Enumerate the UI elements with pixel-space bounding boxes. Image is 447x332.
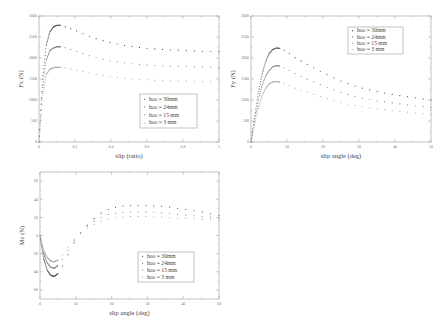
legend-entry: hoo = 24mm bbox=[147, 260, 176, 266]
y-tick-label: -40 bbox=[33, 269, 38, 274]
legend-entry: hoo = 3 mm bbox=[357, 46, 385, 52]
legend-marker-icon bbox=[352, 49, 353, 50]
y-tick-label: 2500 bbox=[241, 34, 249, 39]
legend-marker-icon bbox=[144, 122, 145, 123]
x-tick-label: 40 bbox=[393, 144, 397, 149]
legend-entry: hoo = 30mm bbox=[357, 27, 386, 33]
legend-entry: hoo = 3 mm bbox=[147, 274, 175, 280]
x-axis-label: slip angle (deg) bbox=[109, 309, 149, 317]
x-tick-label: 40 bbox=[181, 301, 185, 306]
y-axis-label: Mz (N) bbox=[18, 226, 26, 245]
legend: hoo = 30mmhoo = 24mmhoo = 15 mmhoo = 3 m… bbox=[348, 27, 403, 54]
y-axis-label: Fy (N) bbox=[229, 70, 237, 88]
y-tick-label: 2500 bbox=[29, 34, 37, 39]
series-hoo-24mm bbox=[250, 65, 431, 143]
y-tick-label: -20 bbox=[33, 251, 38, 256]
legend: hoo = 30mmhoo = 24mmhoo = 15 mmhoo = 3 m… bbox=[138, 252, 194, 282]
legend-entry: hoo = 15 mm bbox=[149, 112, 180, 118]
chart-mz-slip-angle: 01020304050-60-40-200204060slip angle (d… bbox=[0, 165, 230, 332]
series-hoo-30mm bbox=[250, 47, 431, 142]
legend-marker-icon bbox=[142, 256, 143, 257]
x-tick-label: 0.8 bbox=[181, 144, 186, 149]
y-tick-label: 0 bbox=[247, 139, 249, 144]
y-tick-label: 40 bbox=[34, 197, 38, 202]
chart-fy-svg: 01020304050050010001500200025003000slip … bbox=[225, 0, 447, 165]
legend-entry: hoo = 30mm bbox=[149, 96, 178, 102]
x-tick-label: 0 bbox=[39, 301, 41, 306]
legend-marker-icon bbox=[352, 36, 353, 37]
y-tick-label: -60 bbox=[33, 287, 38, 292]
y-tick-label: 1000 bbox=[241, 97, 249, 102]
legend-marker-icon bbox=[352, 30, 353, 31]
legend-marker-icon bbox=[144, 106, 145, 107]
x-tick-label: 50 bbox=[429, 144, 433, 149]
x-axis-label: slip (ratio) bbox=[115, 152, 142, 160]
legend-entry: hoo = 24mm bbox=[357, 34, 386, 40]
chart-fx-slip-ratio: 00.20.40.60.81050010001500200025003000sl… bbox=[0, 0, 225, 165]
x-tick-label: 20 bbox=[321, 144, 325, 149]
x-tick-label: 10 bbox=[74, 301, 78, 306]
x-tick-label: 20 bbox=[110, 301, 114, 306]
y-tick-label: 3000 bbox=[29, 13, 37, 18]
y-tick-label: 0 bbox=[35, 139, 37, 144]
x-axis-label: slip angle (deg) bbox=[321, 152, 361, 160]
chart-fy-slip-angle: 01020304050050010001500200025003000slip … bbox=[225, 0, 447, 165]
legend-entry: hoo = 30mm bbox=[147, 253, 176, 259]
legend-marker-icon bbox=[142, 270, 143, 271]
legend-marker-icon bbox=[142, 263, 143, 264]
x-tick-label: 0 bbox=[250, 144, 252, 149]
y-axis-label: Fx (N) bbox=[17, 70, 25, 88]
x-tick-label: 50 bbox=[217, 301, 221, 306]
legend-marker-icon bbox=[352, 43, 353, 44]
x-tick-label: 30 bbox=[145, 301, 149, 306]
legend-marker-icon bbox=[144, 114, 145, 115]
y-tick-label: 60 bbox=[34, 178, 38, 183]
x-tick-label: 1 bbox=[218, 144, 220, 149]
y-tick-label: 1500 bbox=[241, 76, 249, 81]
x-tick-label: 0 bbox=[38, 144, 40, 149]
y-tick-label: 1000 bbox=[29, 97, 37, 102]
x-tick-label: 30 bbox=[357, 144, 361, 149]
legend-entry: hoo = 15 mm bbox=[147, 267, 178, 273]
legend: hoo = 30mmhoo = 24mmhoo = 15 mmhoo = 3 m… bbox=[140, 94, 197, 128]
y-tick-label: 0 bbox=[36, 233, 38, 238]
y-tick-label: 500 bbox=[243, 118, 249, 123]
x-tick-label: 0.2 bbox=[73, 144, 78, 149]
y-tick-label: 20 bbox=[34, 215, 38, 220]
chart-fx-svg: 00.20.40.60.81050010001500200025003000sl… bbox=[0, 0, 225, 165]
legend-entry: hoo = 15 mm bbox=[357, 40, 388, 46]
legend-entry: hoo = 3 mm bbox=[149, 119, 177, 125]
x-tick-label: 0.4 bbox=[109, 144, 114, 149]
x-tick-label: 0.6 bbox=[145, 144, 150, 149]
x-tick-label: 10 bbox=[285, 144, 289, 149]
chart-mz-svg: 01020304050-60-40-200204060slip angle (d… bbox=[0, 165, 230, 332]
legend-marker-icon bbox=[142, 277, 143, 278]
y-tick-label: 1500 bbox=[29, 76, 37, 81]
legend-entry: hoo = 24mm bbox=[149, 104, 178, 110]
series-hoo-15-mm bbox=[250, 81, 431, 143]
legend-marker-icon bbox=[144, 98, 145, 99]
y-tick-label: 2000 bbox=[241, 55, 249, 60]
plot-frame bbox=[251, 16, 431, 142]
y-tick-label: 2000 bbox=[29, 55, 37, 60]
y-tick-label: 500 bbox=[31, 118, 37, 123]
y-tick-label: 3000 bbox=[241, 13, 249, 18]
